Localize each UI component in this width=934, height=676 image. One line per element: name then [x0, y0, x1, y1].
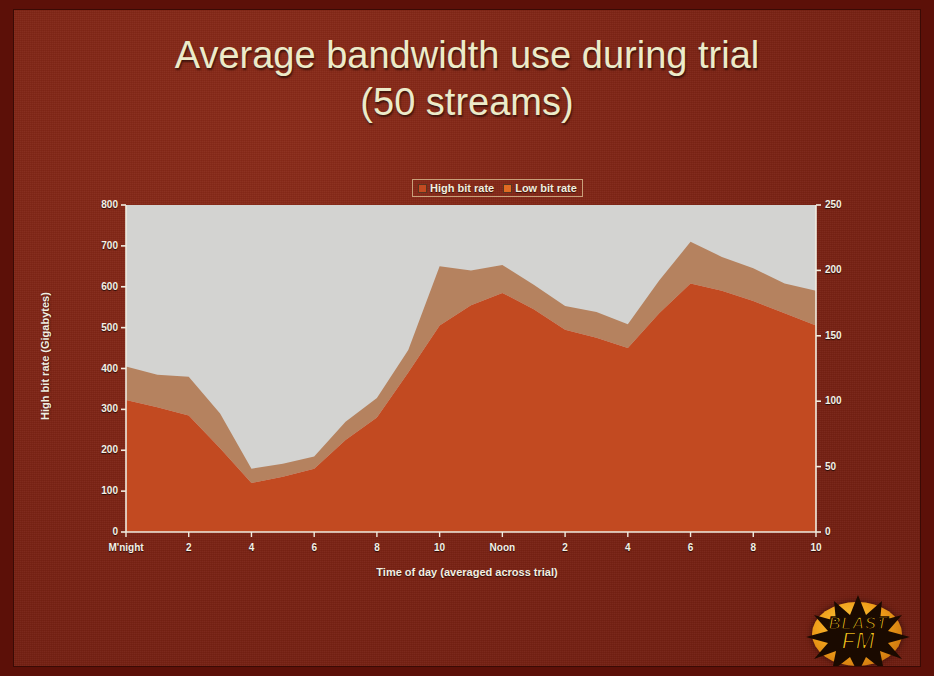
y-tick-label-right: 100 [825, 395, 869, 406]
y-tick-label-left: 500 [74, 322, 118, 333]
y-tick-label-left: 200 [74, 444, 118, 455]
y-tick-label-right: 200 [825, 264, 869, 275]
slide: Average bandwidth use during trial (50 s… [14, 10, 920, 666]
y-axis-label-left: High bit rate (Gigabytes) [39, 276, 51, 436]
y-tick-label-left: 300 [74, 403, 118, 414]
y-tick-label-right: 250 [825, 199, 869, 210]
y-tick-label-right: 150 [825, 330, 869, 341]
y-tick-label-left: 400 [74, 363, 118, 374]
y-tick-label-left: 0 [74, 526, 118, 537]
area-chart: High bit rate (Gigabytes) Low bit rate (… [14, 10, 920, 666]
y-tick-label-left: 100 [74, 485, 118, 496]
y-tick-label-right: 0 [825, 526, 869, 537]
y-tick-label-left: 700 [74, 240, 118, 251]
blast-fm-logo: BLAST FM [804, 593, 912, 666]
x-axis-label: Time of day (averaged across trial) [14, 566, 920, 578]
y-tick-label-left: 600 [74, 281, 118, 292]
logo-starburst-icon [804, 593, 912, 666]
x-tick-label: 10 [776, 542, 856, 553]
y-tick-label-left: 800 [74, 199, 118, 210]
y-tick-label-right: 50 [825, 461, 869, 472]
